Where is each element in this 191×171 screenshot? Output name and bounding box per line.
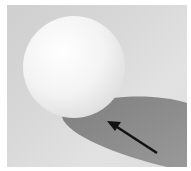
scene-illustration bbox=[7, 5, 187, 167]
sphere bbox=[23, 16, 125, 118]
sphere-shadow-photo bbox=[7, 5, 187, 167]
